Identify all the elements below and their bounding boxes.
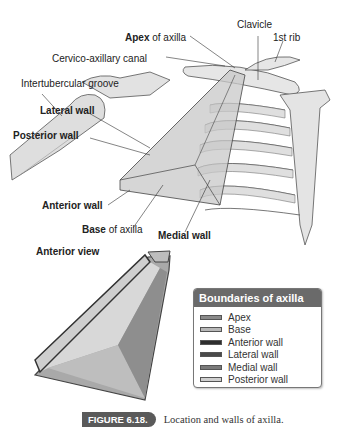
legend-label: Medial wall (228, 362, 277, 373)
figure-caption: FIGURE 6.18. Location and walls of axill… (82, 412, 284, 427)
swatch-base (200, 327, 222, 332)
label-cervico-axillary-canal: Cervico-axillary canal (52, 53, 147, 64)
label-base-rest: of axilla (106, 224, 143, 235)
label-anterior-wall: Anterior wall (42, 200, 103, 211)
label-base-bold: Base (82, 224, 106, 235)
label-lateral-wall: Lateral wall (40, 105, 94, 116)
figure-caption-text: Location and walls of axilla. (164, 414, 284, 425)
figure-number-badge: FIGURE 6.18. (82, 412, 156, 427)
legend-item-medial-wall: Medial wall (200, 361, 321, 374)
sternum-shape (280, 90, 330, 245)
legend-label: Lateral wall (228, 349, 279, 360)
swatch-lateral-wall (200, 352, 222, 357)
legend-item-apex: Apex (200, 311, 321, 324)
swatch-anterior-wall (200, 340, 222, 345)
label-anterior-view: Anterior view (36, 246, 99, 257)
swatch-posterior-wall (200, 377, 222, 382)
label-apex-bold: Apex (125, 32, 149, 43)
legend-label: Apex (228, 312, 251, 323)
swatch-medial-wall (200, 365, 222, 370)
label-base: Base of axilla (82, 224, 143, 235)
label-intertubercular-groove: Intertubercular groove (21, 78, 119, 89)
pyramid-schematic (35, 251, 170, 400)
legend-item-lateral-wall: Lateral wall (200, 349, 321, 362)
legend-title: Boundaries of axilla (194, 289, 321, 307)
legend-box: Boundaries of axilla Apex Base Anterior … (193, 288, 322, 388)
legend-list: Apex Base Anterior wall Lateral wall Med… (194, 307, 321, 386)
legend-item-posterior-wall: Posterior wall (200, 374, 321, 387)
label-clavicle: Clavicle (237, 19, 272, 30)
label-apex-rest: of axilla (149, 32, 186, 43)
legend-label: Base (228, 324, 251, 335)
swatch-apex (200, 315, 222, 320)
label-first-rib: 1st rib (273, 32, 300, 43)
legend-item-base: Base (200, 324, 321, 337)
label-apex: Apex of axilla (125, 32, 186, 43)
legend-item-anterior-wall: Anterior wall (200, 336, 321, 349)
legend-label: Anterior wall (228, 337, 283, 348)
label-posterior-wall: Posterior wall (13, 130, 79, 141)
label-medial-wall: Medial wall (158, 230, 211, 241)
legend-label: Posterior wall (228, 374, 288, 385)
